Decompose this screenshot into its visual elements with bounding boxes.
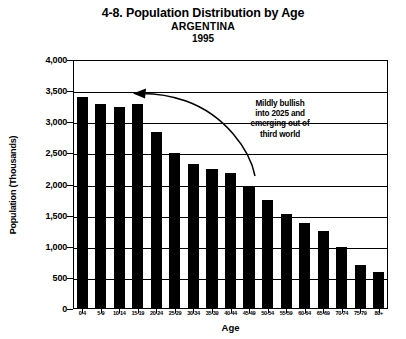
- y-axis-tick-mark: [67, 278, 73, 279]
- bar-series: [73, 60, 388, 309]
- chart-title: 4-8. Population Distribution by Age: [0, 6, 406, 20]
- chart-title-block: 4-8. Population Distribution by Age ARGE…: [0, 6, 406, 45]
- x-axis-tick-mark: [175, 309, 176, 313]
- x-axis-tick-mark: [286, 309, 287, 313]
- y-axis-tick-label: 1,000: [7, 242, 67, 252]
- y-axis-tick-mark: [67, 122, 73, 123]
- bar: [132, 104, 143, 309]
- x-axis-tick-mark: [212, 309, 213, 313]
- y-axis-tick-label: 1,500: [7, 211, 67, 221]
- x-axis-tick-mark: [342, 309, 343, 313]
- x-axis-tick-mark: [323, 309, 324, 313]
- bar: [188, 164, 199, 309]
- x-axis-tick-mark: [305, 309, 306, 313]
- population-chart-figure: 4-8. Population Distribution by Age ARGE…: [0, 0, 406, 339]
- y-axis-tick-label: 2,000: [7, 180, 67, 190]
- bar: [169, 153, 180, 309]
- bar: [281, 214, 292, 309]
- y-axis-tick-mark: [67, 153, 73, 154]
- x-axis-tick-mark: [119, 309, 120, 313]
- bar: [225, 173, 236, 309]
- chart-subtitle-year: 1995: [0, 33, 406, 46]
- chart-subtitle-country: ARGENTINA: [0, 20, 406, 33]
- y-axis-tick-mark: [67, 216, 73, 217]
- annotation-line: Mildly bullish: [226, 99, 334, 109]
- bar: [243, 186, 254, 309]
- x-axis-tick-mark: [360, 309, 361, 313]
- y-axis-tick-label: 500: [7, 273, 67, 283]
- bar: [373, 272, 384, 309]
- x-axis-title: Age: [73, 322, 388, 333]
- annotation-line: third world: [226, 130, 334, 140]
- bar: [299, 223, 310, 309]
- bar: [262, 200, 273, 309]
- y-axis-tick-mark: [67, 247, 73, 248]
- y-axis-tick-mark: [67, 91, 73, 92]
- annotation-line: emerging out of: [226, 119, 334, 129]
- x-axis-tick-mark: [268, 309, 269, 313]
- chart-annotation: Mildly bullishinto 2025 andemerging out …: [226, 99, 334, 140]
- x-axis-tick-mark: [101, 309, 102, 313]
- annotation-line: into 2025 and: [226, 109, 334, 119]
- bar: [114, 107, 125, 309]
- bar: [355, 265, 366, 309]
- x-axis-tick-mark: [231, 309, 232, 313]
- y-axis-tick-mark: [67, 60, 73, 61]
- y-axis-tick-label: 4,000: [7, 55, 67, 65]
- bar: [77, 97, 88, 309]
- x-axis-tick-mark: [138, 309, 139, 313]
- x-axis-tick-mark: [82, 309, 83, 313]
- bar: [318, 231, 329, 309]
- y-axis-tick-mark: [67, 185, 73, 186]
- x-axis-tick-mark: [379, 309, 380, 313]
- bar: [95, 104, 106, 309]
- bar: [206, 169, 217, 309]
- y-axis-tick-label: 2,500: [7, 148, 67, 158]
- y-axis-tick-label: 3,000: [7, 117, 67, 127]
- y-axis-tick-label: 0: [7, 304, 67, 314]
- bar: [151, 132, 162, 309]
- x-axis-tick-mark: [193, 309, 194, 313]
- x-axis-tick-mark: [249, 309, 250, 313]
- x-axis-tick-mark: [156, 309, 157, 313]
- y-axis-tick-label: 3,500: [7, 86, 67, 96]
- bar: [336, 247, 347, 309]
